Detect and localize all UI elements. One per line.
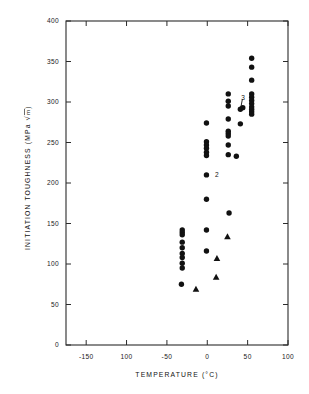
data-point-circle	[238, 121, 243, 126]
data-point-circle	[204, 172, 209, 177]
data-point-circle	[179, 282, 184, 287]
x-axis-title: TEMPERATURE (°C)	[135, 371, 218, 379]
y-tick-label: 300	[47, 98, 59, 105]
data-point-circle	[226, 133, 231, 138]
x-tick-label: -50	[162, 353, 173, 360]
data-point-circle	[180, 245, 185, 250]
data-point-circle	[249, 77, 254, 82]
data-point-circle	[180, 232, 185, 237]
x-tick-label: -150	[79, 353, 94, 360]
x-tick-label: 100	[282, 353, 294, 360]
data-point-circle	[249, 56, 254, 61]
data-point-circle	[226, 98, 231, 103]
y-tick-label: 250	[47, 139, 59, 146]
y-tick-label: 350	[47, 58, 59, 65]
data-point-circle	[180, 255, 185, 260]
data-point-circle	[249, 111, 254, 116]
data-point-circle	[226, 103, 231, 108]
data-point-circle	[226, 142, 231, 147]
x-tick-label: 50	[244, 353, 252, 360]
data-point-circle	[180, 239, 185, 244]
y-tick-label: 50	[51, 301, 59, 308]
annotation-label: 2	[215, 171, 219, 178]
data-point-circle	[204, 248, 209, 253]
y-tick-label: 100	[47, 260, 59, 267]
data-point-circle	[234, 154, 239, 159]
data-point-circle	[180, 260, 185, 265]
data-point-circle	[204, 227, 209, 232]
annotation-label: 3	[241, 94, 245, 101]
data-point-circle	[249, 64, 254, 69]
data-point-circle	[226, 116, 231, 121]
data-point-circle	[226, 210, 231, 215]
y-tick-label: 200	[47, 179, 59, 186]
data-point-circle	[226, 152, 231, 157]
y-axis-title: INITIATION TOUGHNESS (MPa √m)	[23, 105, 32, 250]
data-point-circle	[226, 91, 231, 96]
y-tick-label: 400	[47, 17, 59, 24]
data-point-circle	[204, 153, 209, 158]
data-point-circle	[204, 120, 209, 125]
y-tick-label: 0	[55, 341, 59, 348]
data-point-circle	[204, 197, 209, 202]
x-tick-label: 100	[121, 353, 133, 360]
y-tick-label: 150	[47, 220, 59, 227]
data-point-circle	[180, 265, 185, 270]
x-tick-label: 0	[205, 353, 209, 360]
y-axis-title-text: INITIATION TOUGHNESS (MPa √m)	[23, 105, 32, 250]
initiation-toughness-scatter-chart: -150100-50050100 05010015020025030035040…	[0, 0, 309, 394]
